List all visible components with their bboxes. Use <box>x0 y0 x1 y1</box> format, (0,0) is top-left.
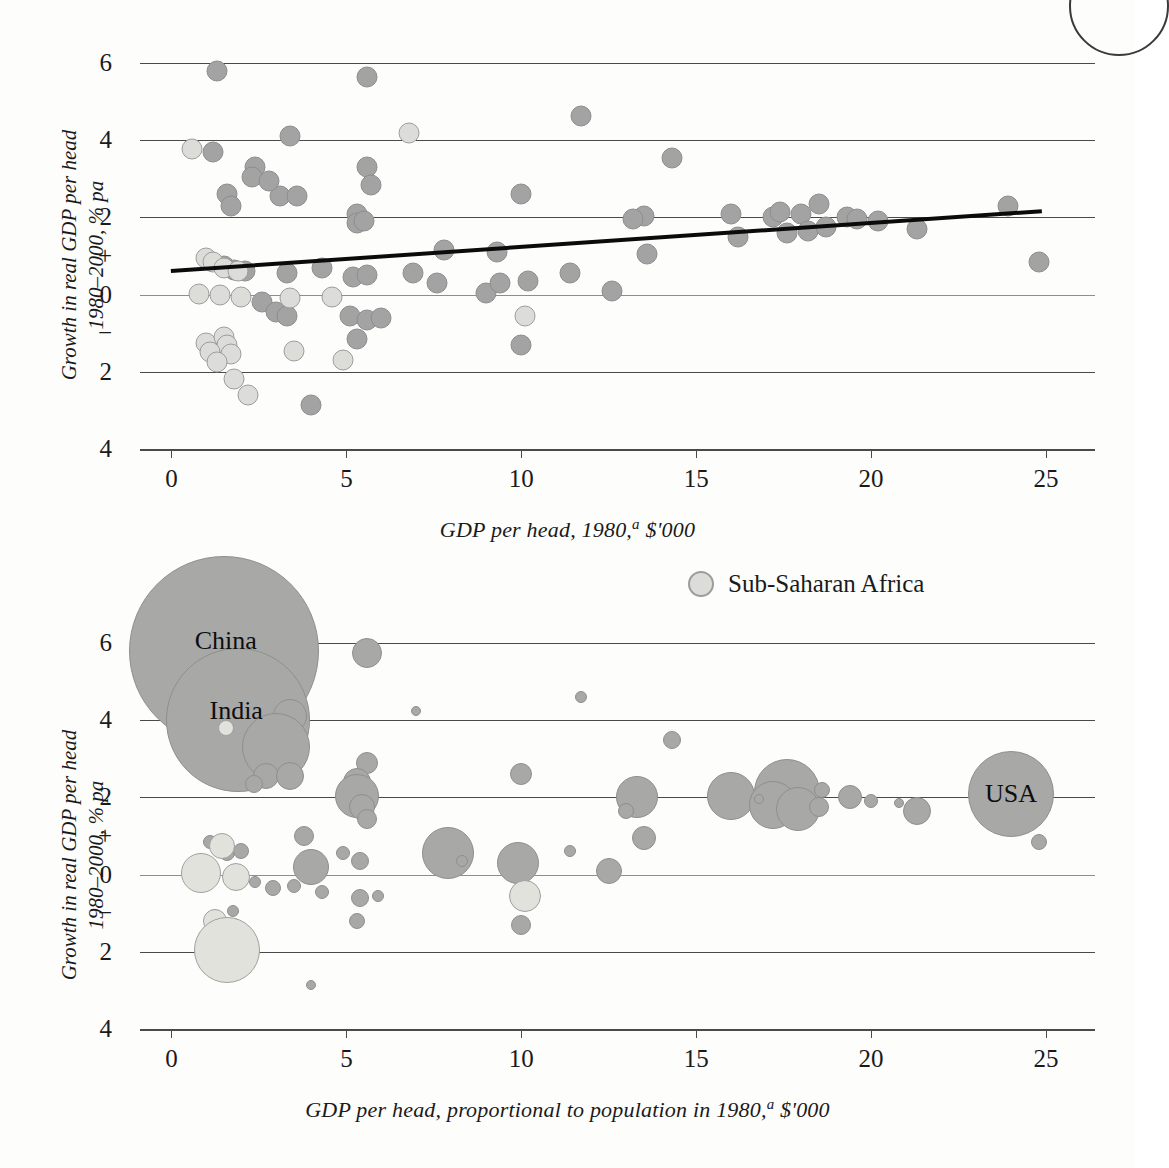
data-point-country <box>287 186 308 207</box>
data-point-country <box>1031 834 1047 850</box>
upper-plot-area: 642024+−0510152025 <box>140 40 1095 472</box>
x-tick-5 <box>346 449 347 458</box>
data-point-country <box>357 809 377 829</box>
lower-x-axis-title-main: GDP per head, proportional to population… <box>305 1097 766 1122</box>
data-point-sub-saharan-africa <box>206 352 227 373</box>
data-point-sub-saharan-africa <box>322 286 343 307</box>
x-tick-5 <box>346 1029 347 1038</box>
legend: Sub-Saharan Africa <box>688 570 924 598</box>
data-point-country <box>632 826 656 850</box>
data-point-country <box>754 794 764 804</box>
x-tick-10 <box>521 449 522 458</box>
data-point-country <box>894 798 904 808</box>
upper-x-axis-title-main: GDP per head, 1980, <box>440 517 632 542</box>
data-point-country <box>903 797 931 825</box>
x-tick-label-5: 5 <box>340 465 353 493</box>
x-tick-label-20: 20 <box>859 1045 884 1073</box>
data-point-sub-saharan-africa <box>509 880 541 912</box>
x-tick-0 <box>171 1029 172 1038</box>
x-tick-label-10: 10 <box>509 1045 534 1073</box>
data-point-country <box>864 794 878 808</box>
lower-bubble-chart: Growth in real GDP per head 1980–2000, %… <box>0 600 1135 1168</box>
y-tick-label-4: 4 <box>52 1015 112 1043</box>
x-tick-label-5: 5 <box>340 1045 353 1073</box>
lower-y-axis-title-line1: Growth in real GDP per head <box>56 640 83 1070</box>
data-point-country <box>249 876 261 888</box>
data-point-country <box>206 60 227 81</box>
data-point-country <box>570 106 591 127</box>
x-tick-label-20: 20 <box>859 465 884 493</box>
data-point-country <box>346 328 367 349</box>
bubble-label-usa: USA <box>985 779 1037 809</box>
data-point-sub-saharan-africa <box>194 917 260 983</box>
data-point-country <box>1029 251 1050 272</box>
data-point-country <box>353 211 374 232</box>
y-tick-label-6: 6 <box>52 49 112 77</box>
y-axis-sign-plus: + <box>52 822 112 850</box>
data-point-country <box>637 244 658 265</box>
data-point-sub-saharan-africa <box>283 340 304 361</box>
x-tick-label-15: 15 <box>684 1045 709 1073</box>
trendline <box>171 209 1042 273</box>
data-point-country <box>707 772 755 820</box>
data-point-country <box>402 263 423 284</box>
y-tick-label-4: 4 <box>52 706 112 734</box>
y-tick-label-2: 2 <box>52 203 112 231</box>
data-point-country <box>575 691 587 703</box>
data-point-country <box>838 785 862 809</box>
data-point-country <box>486 242 507 263</box>
data-point-country <box>721 203 742 224</box>
data-point-country <box>357 265 378 286</box>
data-point-country <box>360 174 381 195</box>
data-point-country <box>372 890 384 902</box>
data-point-country <box>456 855 468 867</box>
data-point-sub-saharan-africa <box>514 305 535 326</box>
data-point-country <box>203 141 224 162</box>
gridline-y-2 <box>140 372 1095 373</box>
y-tick-label-4: 4 <box>52 435 112 463</box>
data-point-country <box>808 193 829 214</box>
data-point-country <box>349 913 365 929</box>
data-point-country <box>490 273 511 294</box>
data-point-country <box>280 126 301 147</box>
data-point-country <box>287 879 301 893</box>
x-tick-label-25: 25 <box>1034 1045 1059 1073</box>
data-point-sub-saharan-africa <box>189 283 210 304</box>
x-tick-label-10: 10 <box>509 465 534 493</box>
data-point-country <box>661 147 682 168</box>
data-point-country <box>814 782 830 798</box>
gridline-y-4 <box>140 449 1095 451</box>
x-tick-25 <box>1046 449 1047 458</box>
data-point-sub-saharan-africa <box>182 138 203 159</box>
upper-x-axis-title-tail: $'000 <box>640 517 695 542</box>
data-point-country <box>847 209 868 230</box>
data-point-country <box>306 980 316 990</box>
data-point-country <box>351 852 369 870</box>
x-tick-label-0: 0 <box>165 1045 178 1073</box>
upper-x-axis-title-superscript: a <box>632 516 640 532</box>
data-point-sub-saharan-africa <box>332 350 353 371</box>
x-tick-label-25: 25 <box>1034 465 1059 493</box>
y-tick-label-6: 6 <box>52 629 112 657</box>
x-tick-10 <box>521 1029 522 1038</box>
data-point-country <box>596 858 622 884</box>
data-point-country <box>809 797 829 817</box>
data-point-country <box>301 394 322 415</box>
data-point-country <box>497 842 539 884</box>
lower-y-axis-title-line2: 1980–2000, % pa <box>83 640 110 1070</box>
legend-label-sub-saharan-africa: Sub-Saharan Africa <box>728 570 924 598</box>
y-tick-label-0: 0 <box>52 861 112 889</box>
data-point-country <box>623 209 644 230</box>
data-point-country <box>220 195 241 216</box>
data-point-country <box>427 273 448 294</box>
x-tick-0 <box>171 449 172 458</box>
data-point-country <box>511 334 532 355</box>
data-point-country <box>276 263 297 284</box>
lower-plot-area: 642024+−0510152025ChinaIndiaUSA <box>140 620 1095 1052</box>
gridline-y-6 <box>140 63 1095 64</box>
y-axis-sign-minus: − <box>52 899 112 927</box>
lower-x-axis-title-tail: $'000 <box>774 1097 829 1122</box>
data-point-sub-saharan-africa <box>231 286 252 307</box>
x-tick-15 <box>696 1029 697 1038</box>
data-point-country <box>259 170 280 191</box>
